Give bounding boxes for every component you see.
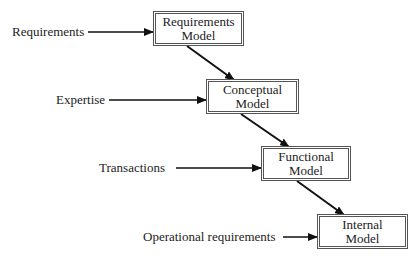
- node-requirements-model: Requirements Model: [153, 11, 244, 46]
- node-subtitle: Model: [289, 164, 323, 178]
- input-label-expertise: Expertise: [56, 93, 105, 107]
- input-label-requirements: Requirements: [12, 25, 84, 39]
- node-title: Functional: [278, 150, 334, 164]
- flow-arrow-functional-to-internal: [297, 181, 344, 215]
- input-label-operational-requirements: Operational requirements: [143, 230, 275, 244]
- flow-arrow-conceptual-to-functional: [241, 114, 289, 147]
- diagram-canvas: Requirements Expertise Transactions Oper…: [0, 0, 417, 260]
- input-label-transactions: Transactions: [99, 161, 165, 175]
- node-subtitle: Model: [182, 29, 216, 43]
- node-conceptual-model: Conceptual Model: [206, 79, 299, 114]
- node-subtitle: Model: [236, 97, 270, 111]
- flow-arrow-requirements-to-conceptual: [187, 46, 234, 80]
- node-internal-model: Internal Model: [317, 214, 408, 249]
- node-title: Internal: [342, 218, 382, 232]
- node-subtitle: Model: [346, 232, 380, 246]
- node-functional-model: Functional Model: [261, 146, 351, 181]
- node-title: Conceptual: [223, 83, 282, 97]
- node-title: Requirements: [162, 15, 234, 29]
